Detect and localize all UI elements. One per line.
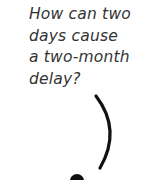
question-mark-hook-icon xyxy=(0,0,146,180)
question-dot xyxy=(70,174,84,180)
hook-arc xyxy=(96,96,110,168)
